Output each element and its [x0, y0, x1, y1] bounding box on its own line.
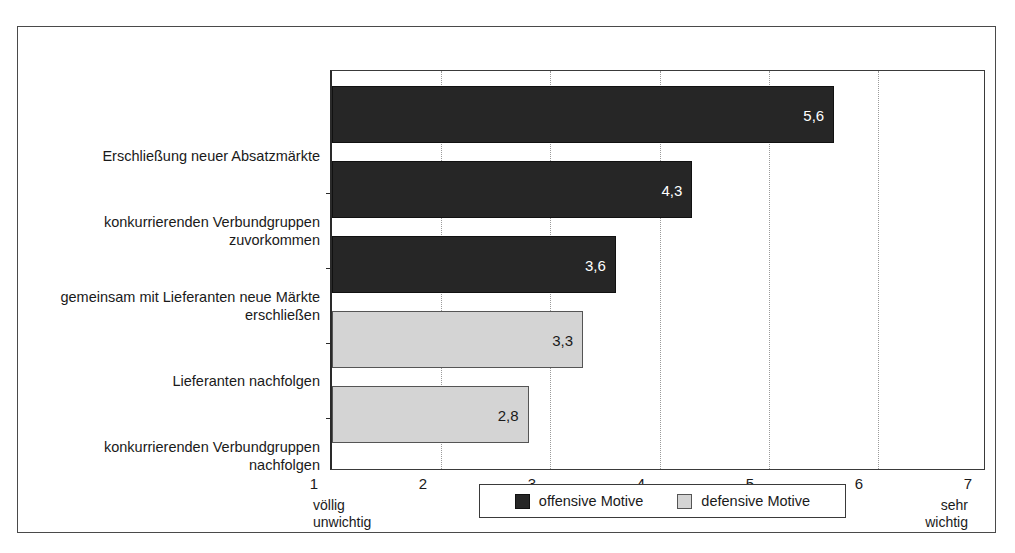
plot-area: 5,6 4,3 3,6 3,3 2,8 [330, 70, 985, 470]
bar-0[interactable]: 5,6 [332, 86, 834, 143]
bar-value-0: 5,6 [803, 107, 824, 122]
category-axis-labels: Erschließung neuer Absatzmärkte konkurri… [28, 70, 320, 470]
bar-value-2: 3,6 [585, 257, 606, 272]
gridline-6 [878, 71, 879, 469]
category-label-0: Erschließung neuer Absatzmärkte [30, 147, 320, 165]
legend-label-offensive: offensive Motive [539, 494, 644, 509]
xtick-label-2: 2 [419, 476, 427, 491]
bar-2[interactable]: 3,6 [332, 236, 616, 293]
legend-swatch-offensive-icon [515, 494, 530, 509]
bar-value-1: 4,3 [661, 182, 682, 197]
axis-caption-low: völlig unwichtig [313, 497, 371, 531]
category-label-1: konkurrierenden Verbundgruppen zuvorkomm… [30, 213, 320, 249]
category-label-3: Lieferanten nachfolgen [30, 372, 320, 390]
legend-item-offensive[interactable]: offensive Motive [515, 494, 644, 509]
chart-legend: offensive Motive defensive Motive [479, 484, 846, 518]
bar-3[interactable]: 3,3 [332, 311, 583, 368]
xtick-label-6: 6 [855, 476, 863, 491]
legend-swatch-defensive-icon [677, 494, 692, 509]
xtick-label-7: 7 [964, 476, 972, 491]
chart-outer-frame: Erschließung neuer Absatzmärkte konkurri… [17, 26, 996, 533]
xtick-label-1: 1 [310, 476, 318, 491]
legend-label-defensive: defensive Motive [701, 494, 810, 509]
legend-item-defensive[interactable]: defensive Motive [677, 494, 810, 509]
category-label-4: konkurrierenden Verbundgruppen nachfolge… [30, 438, 320, 474]
bar-value-4: 2,8 [498, 407, 519, 422]
bar-4[interactable]: 2,8 [332, 386, 529, 443]
bar-1[interactable]: 4,3 [332, 161, 692, 218]
category-label-2: gemeinsam mit Lieferanten neue Märkte er… [30, 288, 320, 324]
axis-caption-high: sehr wichtig [878, 497, 968, 531]
bar-value-3: 3,3 [552, 332, 573, 347]
